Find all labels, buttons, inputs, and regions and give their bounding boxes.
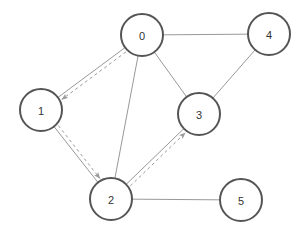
graph-edge-1-2 [54, 127, 98, 183]
graph-nodes-layer: 012345 [20, 13, 290, 221]
graph-edge-0-3 [154, 52, 186, 97]
graph-path-arrow-2-to-3 [130, 133, 185, 186]
graph-node-4[interactable]: 4 [248, 13, 290, 55]
graph-node-label-1: 1 [38, 105, 44, 117]
graph-node-5[interactable]: 5 [220, 179, 262, 221]
graph-node-3[interactable]: 3 [178, 93, 220, 135]
graph-edge-0-1 [58, 48, 125, 98]
graph-node-2[interactable]: 2 [90, 178, 132, 220]
graph-node-label-4: 4 [266, 29, 272, 41]
graph-edges-layer [54, 34, 255, 200]
graph-node-label-0: 0 [139, 30, 145, 42]
graph-path-arrow-0-to-1 [62, 52, 126, 100]
graph-node-1[interactable]: 1 [20, 89, 62, 131]
graph-node-label-3: 3 [196, 109, 202, 121]
graph-node-0[interactable]: 0 [121, 14, 163, 56]
graph-node-label-2: 2 [108, 194, 114, 206]
graph-edge-2-5 [132, 199, 220, 200]
graph-edge-2-3 [126, 129, 184, 185]
graph-path-arrow-1-to-2 [58, 126, 100, 179]
graph-node-label-5: 5 [238, 195, 244, 207]
graph-edge-3-4 [213, 50, 255, 98]
graph-diagram-canvas: 012345 [0, 0, 305, 235]
graph-edge-0-4 [163, 34, 248, 35]
graph-path-arrows-layer [58, 52, 185, 186]
graph-edge-0-2 [115, 56, 138, 179]
graph-svg: 012345 [0, 0, 305, 235]
